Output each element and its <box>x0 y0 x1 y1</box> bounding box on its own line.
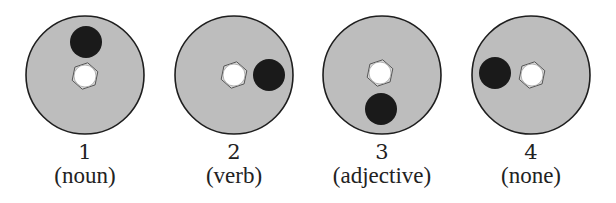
figure-label-4: (none) <box>451 163 611 189</box>
position-dot-icon <box>253 59 285 91</box>
figure-label-1: (noun) <box>5 163 165 189</box>
center-hole-icon <box>74 65 96 87</box>
figure-label-2: (verb) <box>154 163 314 189</box>
figure-number-1: 1 <box>5 141 165 163</box>
disk-figure-3 <box>323 16 441 134</box>
part-of-speech-disk-diagram: 1 (noun) 2 (verb) 3 (adjective) 4 (none) <box>0 0 616 203</box>
figure-number-3: 3 <box>302 141 462 163</box>
disk-figure-2 <box>175 16 293 134</box>
center-hole-icon <box>521 64 543 86</box>
position-dot-icon <box>70 26 102 58</box>
center-hole-icon <box>369 62 391 84</box>
disk-figure-1 <box>26 16 144 134</box>
figure-number-2: 2 <box>154 141 314 163</box>
position-dot-icon <box>365 93 397 125</box>
center-hole-icon <box>223 64 245 86</box>
figure-label-3: (adjective) <box>302 163 462 189</box>
figure-number-4: 4 <box>451 141 611 163</box>
disk-figure-4 <box>472 16 590 134</box>
position-dot-icon <box>479 57 511 89</box>
